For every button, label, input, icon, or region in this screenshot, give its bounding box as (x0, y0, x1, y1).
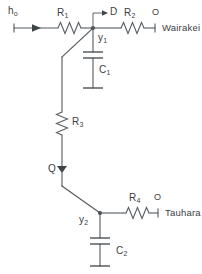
ho-flow-arrowhead (32, 24, 41, 32)
label-y2-sub: 2 (84, 219, 88, 226)
label-source-ho-sub: o (14, 10, 18, 17)
label-terminal-wairakei: Wairakei (162, 23, 200, 33)
label-r4: R4 (129, 193, 141, 203)
label-y1-sub: 1 (103, 37, 107, 44)
label-r4-sub: 4 (136, 197, 140, 204)
label-terminal-tauhara: Tauhara (165, 208, 201, 218)
label-y2: y2 (79, 215, 88, 225)
wire-bend-diagonal-to-node-y2 (62, 186, 100, 213)
label-port-o-tauhara: O (154, 193, 161, 202)
r1-resistor-symbol (58, 23, 81, 34)
circuit-diagram-canvas: ho R1 D R2 O Wairakei y1 C1 R3 Q y2 R4 O… (0, 0, 202, 274)
label-r1: R1 (57, 8, 69, 18)
label-c1-sub: 1 (106, 69, 110, 76)
label-r3: R3 (72, 117, 84, 127)
label-y1: y1 (98, 33, 107, 43)
label-c2: C2 (116, 246, 128, 256)
label-port-o-wairakei: O (152, 8, 159, 17)
d-flow-arrowhead (102, 10, 108, 16)
label-c1: C1 (99, 65, 111, 75)
label-c2-sub: 2 (123, 250, 127, 257)
label-node-q: Q (48, 164, 56, 174)
q-flow-arrowhead (57, 166, 67, 173)
label-r3-sub: 3 (79, 121, 83, 128)
label-node-d: D (110, 7, 117, 17)
r2-resistor-symbol (121, 23, 144, 34)
label-source-ho-base: h (8, 5, 14, 16)
label-r1-sub: 1 (64, 12, 68, 19)
r4-resistor-symbol (126, 208, 149, 219)
r3-resistor-symbol (57, 112, 68, 135)
label-r2: R2 (124, 8, 136, 18)
label-source-ho: ho (8, 6, 18, 16)
label-r2-sub: 2 (131, 12, 135, 19)
